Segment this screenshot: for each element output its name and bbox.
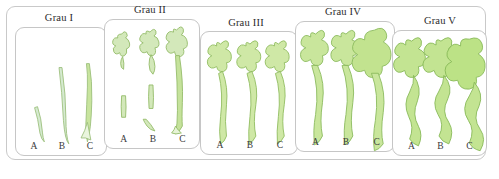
panel-title-grau-3: Grau III: [200, 17, 292, 28]
specimen-label-grau-1-c: C: [82, 141, 98, 151]
specimen-grau-1-b: [59, 68, 69, 144]
specimen-grau-3-a: [207, 41, 231, 144]
specimen-grau-3-c: [265, 41, 289, 144]
specimen-grau-4-a: [300, 30, 328, 144]
specimen-grau-4-b: [331, 30, 359, 144]
specimen-grau-2-b-seg1: [149, 85, 154, 109]
panel-card-grau-2: A B C: [104, 19, 200, 149]
specimen-grau-1-a: [35, 107, 45, 142]
specimen-grau-5-b: [423, 38, 457, 144]
specimen-grau-2-c: [166, 27, 187, 134]
specimen-group-grau-3: [201, 32, 297, 154]
label-row-grau-1: A B C: [20, 141, 104, 151]
specimen-grau-2-b-seg2: [143, 119, 155, 131]
specimen-label-grau-5-a: A: [404, 141, 420, 151]
panel-title-grau-4: Grau IV: [297, 6, 389, 17]
specimen-group-grau-4: [296, 22, 394, 151]
specimen-label-grau-4-c: C: [369, 137, 385, 147]
specimen-grau-1-c: [86, 64, 92, 142]
specimen-grau-4-c: [352, 28, 391, 150]
panel-title-grau-1: Grau I: [14, 12, 104, 23]
specimen-grau-1-c-flare: [81, 122, 91, 140]
specimen-label-grau-4-b: B: [338, 137, 354, 147]
label-row-grau-5: A B C: [397, 141, 484, 151]
specimen-group-grau-2: [105, 20, 199, 148]
specimen-grau-3-b: [237, 41, 261, 144]
panel-card-grau-4: A B C: [295, 21, 395, 152]
panel-card-grau-5: A B C: [392, 30, 487, 156]
specimen-label-grau-3-c: C: [272, 140, 288, 150]
specimen-label-grau-5-b: B: [433, 141, 449, 151]
label-row-grau-2: A B C: [109, 134, 197, 144]
specimen-label-grau-3-b: B: [242, 140, 258, 150]
specimen-grau-5-c: [445, 38, 485, 151]
panel-card-grau-1: A B C: [15, 27, 107, 156]
label-row-grau-3: A B C: [205, 140, 295, 150]
specimen-group-grau-5: [393, 31, 486, 155]
panel-title-grau-5: Grau V: [394, 15, 486, 26]
specimen-label-grau-2-b: B: [145, 134, 161, 144]
label-row-grau-4: A B C: [300, 137, 392, 147]
specimen-group-grau-1: [16, 28, 106, 155]
specimen-label-grau-5-c: C: [462, 141, 478, 151]
specimen-label-grau-1-a: A: [26, 141, 42, 151]
specimen-label-grau-4-a: A: [307, 137, 323, 147]
specimen-label-grau-2-a: A: [116, 134, 132, 144]
panel-card-grau-3: A B C: [200, 31, 298, 155]
specimen-grau-2-a: [113, 32, 130, 117]
specimen-grau-2-a-stub: [121, 96, 126, 118]
specimen-label-grau-2-c: C: [174, 134, 190, 144]
specimen-grau-5-a: [394, 38, 426, 146]
specimen-grau-2-b: [140, 29, 159, 131]
figure-root: Grau I A B C Grau II: [0, 0, 499, 179]
specimen-label-grau-3-a: A: [212, 140, 228, 150]
panel-title-grau-2: Grau II: [105, 4, 195, 15]
specimen-label-grau-1-b: B: [54, 141, 70, 151]
